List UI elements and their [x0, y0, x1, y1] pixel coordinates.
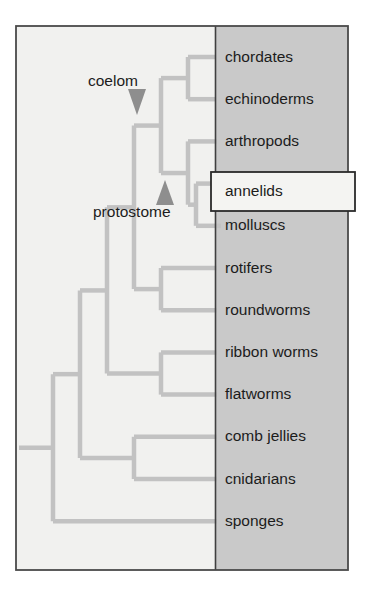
taxon-label-molluscs: molluscs	[225, 216, 286, 233]
taxon-label-comb-jellies: comb jellies	[225, 427, 306, 444]
taxon-label-sponges: sponges	[225, 512, 284, 529]
taxon-label-cnidarians: cnidarians	[225, 470, 296, 487]
cladogram-canvas: chordatesechinodermsarthropodsannelidsmo…	[0, 0, 372, 602]
taxon-label-ribbon-worms: ribbon worms	[225, 343, 318, 360]
node-label-protostome: protostome	[93, 203, 171, 220]
annelids-callout[interactable]: annelids	[211, 172, 355, 211]
label-panel-background	[215, 26, 348, 570]
taxon-label-echinoderms: echinoderms	[225, 90, 314, 107]
taxon-label-rotifers: rotifers	[225, 259, 273, 276]
taxon-label-roundworms: roundworms	[225, 301, 311, 318]
taxon-label-flatworms: flatworms	[225, 385, 292, 402]
annelids-callout-label: annelids	[225, 182, 283, 199]
taxon-label-chordates: chordates	[225, 48, 293, 65]
taxon-label-arthropods: arthropods	[225, 132, 299, 149]
cladogram-figure: chordatesechinodermsarthropodsannelidsmo…	[0, 0, 372, 602]
node-label-coelom: coelom	[88, 72, 138, 89]
